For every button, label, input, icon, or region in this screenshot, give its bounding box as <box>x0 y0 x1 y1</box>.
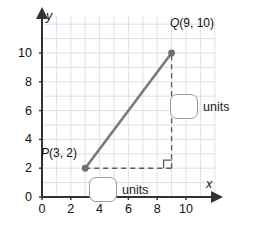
x-tick-label-6: 6 <box>118 203 138 216</box>
point-p-coords: (3, 2) <box>49 146 77 160</box>
y-tick-label-8: 8 <box>10 76 32 89</box>
point-p-name: P <box>41 146 49 160</box>
x-tick-label-8: 8 <box>147 203 167 216</box>
point-p-label: P(3, 2) <box>41 147 77 159</box>
units-label-vertical-leg: units <box>203 101 229 114</box>
answer-box-vertical-leg[interactable] <box>170 94 198 119</box>
point-q-label: Q(9, 10) <box>170 17 214 29</box>
x-tick-label-4: 4 <box>90 203 110 216</box>
y-axis-label: y <box>46 10 52 23</box>
y-tick-label-4: 4 <box>10 133 32 146</box>
units-label-horizontal-leg: units <box>122 184 148 197</box>
y-tick-label-6: 6 <box>10 105 32 118</box>
answer-box-horizontal-leg[interactable] <box>89 177 117 202</box>
y-tick-label-10: 10 <box>10 47 32 60</box>
point-q-name: Q <box>170 16 179 30</box>
point-p-marker <box>82 165 89 172</box>
right-angle-marker <box>164 160 172 168</box>
y-tick-label-0: 0 <box>10 191 32 204</box>
y-tick-label-2: 2 <box>10 162 32 175</box>
x-tick-label-2: 2 <box>61 203 81 216</box>
point-q-marker <box>168 50 175 57</box>
x-tick-label-10: 10 <box>176 203 196 216</box>
point-q-coords: (9, 10) <box>179 16 214 30</box>
x-axis-label: x <box>206 178 212 191</box>
x-tick-label-0: 0 <box>32 203 52 216</box>
coordinate-plane-figure: 0 2 4 6 8 10 0 2 4 6 8 10 y x Q(9, 10) P… <box>0 0 253 237</box>
